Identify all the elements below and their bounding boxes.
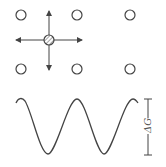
interstitial-atom [44, 35, 54, 45]
energy-profile: ΔG [16, 99, 153, 155]
energy-curve [16, 99, 138, 154]
lattice-site [72, 10, 82, 20]
lattice-site [16, 64, 26, 74]
diffusion-diagram: ΔG [0, 0, 166, 167]
lattice-site [125, 10, 135, 20]
lattice [16, 10, 135, 74]
lattice-site [16, 10, 26, 20]
barrier-label: ΔG [142, 118, 153, 134]
lattice-site [72, 64, 82, 74]
lattice-site [125, 64, 135, 74]
